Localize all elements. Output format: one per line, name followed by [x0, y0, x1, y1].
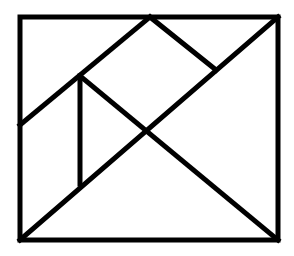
- upper-left-diagonal-line: [20, 17, 150, 125]
- tangram-diagram: [0, 0, 294, 256]
- segment-group: [20, 17, 278, 240]
- diagram-container: Tangram square dissection: [0, 0, 294, 256]
- top-right-slant-line: [150, 17, 216, 70]
